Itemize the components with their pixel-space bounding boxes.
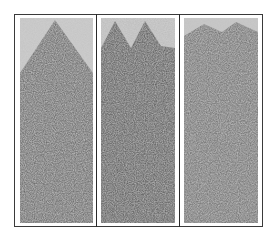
panel-3: [184, 18, 258, 223]
panel-2: [101, 18, 175, 223]
noise-texture-diffuse: [184, 18, 258, 223]
panel-1: [20, 18, 93, 223]
noise-texture-double-peak: [101, 18, 175, 223]
panel-divider-2: [179, 14, 180, 227]
noise-texture-single-peak: [20, 18, 93, 223]
panel-divider-1: [96, 14, 97, 227]
